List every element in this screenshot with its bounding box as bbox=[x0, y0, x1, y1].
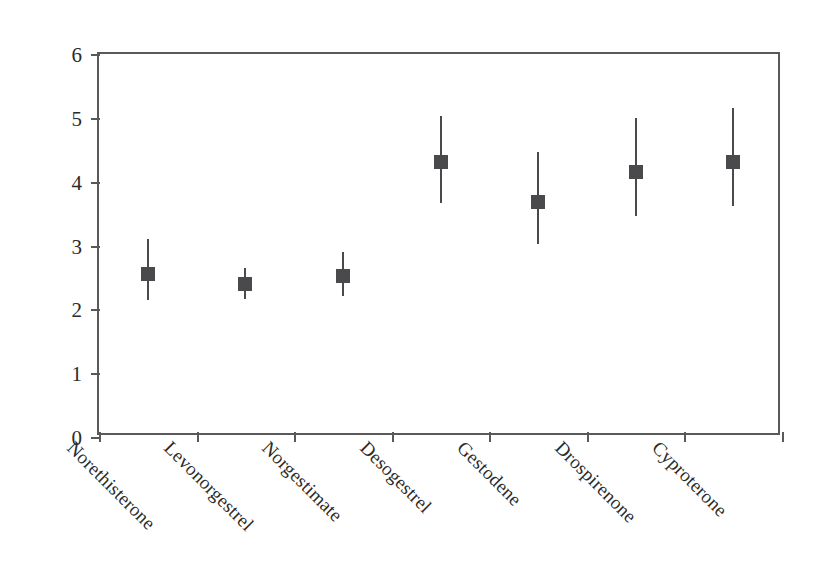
point-marker bbox=[629, 165, 643, 179]
y-tick-5: 5 bbox=[91, 118, 100, 120]
x-axis-labels: NorethisteroneLevonorgestrelNorgestimate… bbox=[97, 437, 780, 575]
x-axis-label-norgestimate: Norgestimate bbox=[257, 437, 346, 526]
y-tick-label: 6 bbox=[72, 45, 83, 66]
point-marker bbox=[434, 155, 448, 169]
y-tick-label: 3 bbox=[72, 237, 83, 258]
y-tick-3: 3 bbox=[91, 246, 100, 248]
y-tick-4: 4 bbox=[91, 182, 100, 184]
point-marker bbox=[726, 155, 740, 169]
x-axis-label-gestodene: Gestodene bbox=[453, 437, 527, 511]
x-axis-label-cyproterone: Cyproterone bbox=[648, 437, 732, 521]
point-marker bbox=[336, 269, 350, 283]
y-tick-label: 5 bbox=[72, 109, 83, 130]
x-axis-label-levonorgestrel: Levonorgestrel bbox=[160, 437, 259, 536]
y-tick-label: 2 bbox=[72, 300, 83, 321]
y-axis-title: Adjusted odds ratio (95% CI) bbox=[18, 0, 44, 52]
y-tick-1: 1 bbox=[91, 373, 100, 375]
x-axis-label-drospirenone: Drospirenone bbox=[550, 437, 640, 527]
plot-area: 0123456 bbox=[97, 52, 780, 435]
x-tick bbox=[782, 432, 784, 442]
y-tick-label: 1 bbox=[72, 364, 83, 385]
forest-plot-figure: Adjusted odds ratio (95% CI) 0123456 Nor… bbox=[0, 0, 821, 575]
point-marker bbox=[141, 267, 155, 281]
point-marker bbox=[238, 277, 252, 291]
y-tick-6: 6 bbox=[91, 54, 100, 56]
x-axis-label-desogestrel: Desogestrel bbox=[355, 437, 436, 518]
point-marker bbox=[531, 195, 545, 209]
x-axis-label-norethisterone: Norethisterone bbox=[62, 437, 159, 534]
y-tick-2: 2 bbox=[91, 309, 100, 311]
y-tick-label: 4 bbox=[72, 173, 83, 194]
